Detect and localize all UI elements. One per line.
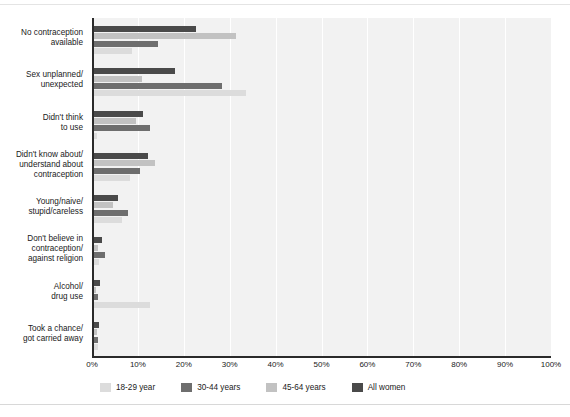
bar [92, 302, 150, 308]
y-axis-label: Sex unplanned/ unexpected [0, 70, 83, 90]
bar [92, 76, 142, 82]
y-axis-label: Young/naive/ stupid/careless [0, 197, 83, 217]
x-axis-tick-label: 90% [497, 360, 513, 369]
legend-label: 30-44 years [197, 383, 240, 392]
legend-label: 18-29 year [116, 383, 155, 392]
y-axis-label: Didn't think to use [0, 113, 83, 133]
bar [92, 195, 118, 201]
x-axis-tick-label: 30% [222, 360, 238, 369]
x-axis-tick-label: 100% [541, 360, 561, 369]
legend-item[interactable]: 30-44 years [181, 383, 240, 392]
bar [92, 68, 175, 74]
bar [92, 111, 143, 117]
bar-group [92, 26, 551, 54]
bar [92, 210, 128, 216]
x-axis-tick-label: 70% [405, 360, 421, 369]
bar-group [92, 195, 551, 223]
x-axis-tick-label: 0% [86, 360, 98, 369]
x-axis-line [92, 356, 551, 358]
legend-label: All women [368, 383, 406, 392]
legend-item[interactable]: 45-64 years [266, 383, 325, 392]
y-axis-label: No contraception available [0, 28, 83, 48]
legend-item[interactable]: 18-29 year [100, 383, 155, 392]
bar [92, 160, 155, 166]
bar-group [92, 111, 551, 139]
bar [92, 202, 113, 208]
chart-figure: No contraception availableSex unplanned/… [0, 0, 570, 417]
bar-group [92, 280, 551, 308]
bar [92, 90, 246, 96]
bar-group [92, 153, 551, 181]
y-axis-label: Alcohol/ drug use [0, 282, 83, 302]
bar [92, 33, 236, 39]
y-axis-labels: No contraception availableSex unplanned/… [0, 18, 88, 356]
gridline [551, 18, 552, 356]
legend-item[interactable]: All women [352, 383, 406, 392]
bottom-divider [0, 404, 570, 405]
bar [92, 48, 132, 54]
bar [92, 26, 196, 32]
bar [92, 252, 105, 258]
x-axis-tick-label: 50% [313, 360, 329, 369]
bar [92, 125, 150, 131]
bar [92, 175, 130, 181]
bar-group [92, 322, 551, 350]
bar-group [92, 68, 551, 96]
x-axis-tick-label: 60% [359, 360, 375, 369]
x-axis-tick-labels: 0%10%20%30%40%50%60%70%80%90%100% [0, 360, 570, 374]
plot-area [92, 18, 551, 356]
x-axis-tick-label: 40% [268, 360, 284, 369]
chart-legend: 18-29 year30-44 years45-64 yearsAll wome… [100, 383, 405, 392]
bar [92, 83, 222, 89]
bar [92, 153, 148, 159]
bar [92, 168, 140, 174]
y-axis-label: Don't believe in contraception/ against … [0, 234, 83, 264]
legend-swatch-icon [100, 383, 111, 392]
legend-swatch-icon [352, 383, 363, 392]
bar [92, 118, 136, 124]
bar [92, 41, 158, 47]
legend-swatch-icon [181, 383, 192, 392]
legend-label: 45-64 years [282, 383, 325, 392]
x-axis-tick-label: 10% [130, 360, 146, 369]
y-axis-label: Didn't know about/ understand about cont… [0, 150, 83, 180]
x-axis-tick-label: 80% [451, 360, 467, 369]
legend-swatch-icon [266, 383, 277, 392]
y-axis-label: Took a chance/ got carried away [0, 324, 83, 344]
x-axis-tick-label: 20% [176, 360, 192, 369]
bar [92, 217, 122, 223]
bar-group [92, 237, 551, 265]
y-axis-line [92, 18, 94, 356]
top-divider [0, 4, 570, 5]
